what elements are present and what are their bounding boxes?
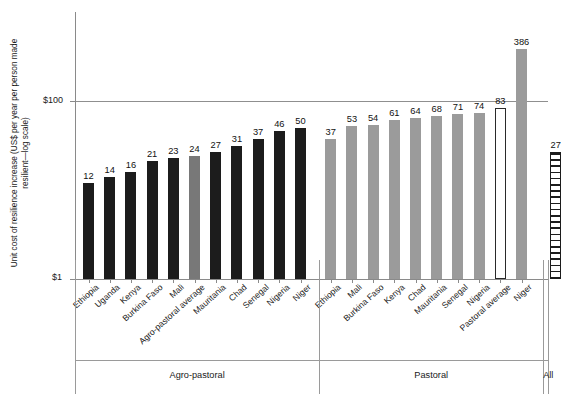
y-axis-title: Unit cost of resilience increase (US$ pe… [2, 28, 38, 278]
bar-fill [389, 120, 400, 279]
x-axis-category-label: Niger [291, 282, 313, 303]
x-tick-mark [331, 279, 332, 283]
bar-fill [168, 158, 179, 279]
y-tick-label-100: $100 [43, 95, 63, 105]
bar-value-label: 27 [211, 140, 221, 150]
x-tick-mark [500, 279, 501, 283]
x-tick-mark [437, 279, 438, 283]
x-tick-mark [131, 279, 132, 283]
x-tick-mark [237, 279, 238, 283]
group-band: Agro-pastoralPastoralAll [75, 360, 548, 394]
y-axis-title-text: Unit cost of resilience increase (US$ pe… [2, 28, 38, 278]
bar-fill [253, 139, 264, 279]
x-axis-category-label: Kenya [382, 282, 407, 306]
bar: 71 [452, 114, 463, 279]
bars-container: 1214162123242731374650375354616468717483… [75, 12, 548, 279]
bar: 37 [325, 139, 336, 279]
x-tick-mark [522, 279, 523, 283]
bar-fill [274, 131, 285, 279]
bar-fill [125, 172, 136, 279]
bar: 12 [83, 183, 94, 279]
bar-value-label: 50 [295, 116, 305, 126]
bar: 27 [210, 152, 221, 279]
bar: 27 [550, 152, 561, 279]
bar: 46 [274, 131, 285, 279]
group-label-agro-pastoral: Agro-pastoral [75, 370, 319, 380]
x-tick-mark [89, 279, 90, 283]
x-tick-mark [352, 279, 353, 283]
x-tick-mark [458, 279, 459, 283]
bar-value-label: 46 [274, 119, 284, 129]
x-axis-line [75, 279, 548, 280]
bar-fill [410, 118, 421, 279]
bar-fill [452, 114, 463, 279]
x-tick-mark [258, 279, 259, 283]
category-labels-container: EthiopiaUgandaKenyaBurkina FasoMaliAgro-… [75, 282, 548, 357]
bar-fill [431, 116, 442, 279]
x-tick-mark [195, 279, 196, 283]
bar: 31 [231, 146, 242, 279]
group-band-top-line [75, 360, 548, 361]
bar-value-label: 386 [514, 37, 530, 47]
x-tick-mark [301, 279, 302, 283]
group-label-all: All [543, 370, 548, 380]
y-tick-label-1: $1 [52, 272, 62, 282]
bar-fill [495, 108, 506, 279]
bar-fill [83, 183, 94, 279]
bar-fill [210, 152, 221, 279]
bar: 37 [253, 139, 264, 279]
bar-value-label: 68 [432, 104, 442, 114]
bar: 24 [189, 156, 200, 279]
bar: 74 [474, 113, 485, 279]
x-tick-mark [479, 279, 480, 283]
bar-value-label: 24 [189, 144, 199, 154]
x-tick-mark [152, 279, 153, 283]
x-tick-mark [394, 279, 395, 283]
bar-fill [474, 113, 485, 279]
bar-fill [346, 126, 357, 280]
bar: 16 [125, 172, 136, 279]
bar: 68 [431, 116, 442, 279]
x-axis-category-label: Ethiopia [313, 282, 343, 310]
bar-fill [516, 49, 527, 279]
bar-value-label: 37 [326, 127, 336, 137]
bar-value-label: 16 [126, 160, 136, 170]
bar: 54 [368, 125, 379, 279]
x-tick-mark [416, 279, 417, 283]
bar-fill [189, 156, 200, 279]
bar: 23 [168, 158, 179, 279]
bar: 64 [410, 118, 421, 279]
x-axis-category-label: Niger [512, 282, 534, 303]
bar-value-label: 27 [551, 140, 561, 150]
bar: 21 [147, 161, 158, 279]
bar-value-label: 12 [83, 171, 93, 181]
bar-fill [104, 177, 115, 279]
bar-value-label: 64 [410, 106, 420, 116]
bar: 61 [389, 120, 400, 279]
x-tick-mark [173, 279, 174, 283]
bar-value-label: 61 [389, 108, 399, 118]
bar-value-label: 37 [253, 127, 263, 137]
bar-value-label: 31 [232, 134, 242, 144]
bar-value-label: 74 [474, 101, 484, 111]
bar-value-label: 83 [495, 96, 505, 106]
bar: 14 [104, 177, 115, 279]
bar-fill [325, 139, 336, 279]
bar-value-label: 21 [147, 149, 157, 159]
bar: 386 [516, 49, 527, 279]
group-label-pastoral: Pastoral [319, 370, 543, 380]
x-tick-mark [216, 279, 217, 283]
x-tick-mark [110, 279, 111, 283]
bar: 83 [495, 108, 506, 279]
bar: 53 [346, 126, 357, 280]
bar-value-label: 23 [168, 146, 178, 156]
bar-value-label: 14 [105, 165, 115, 175]
bar-value-label: 71 [453, 102, 463, 112]
bar-fill [147, 161, 158, 279]
bar-value-label: 53 [347, 114, 357, 124]
bar-fill [368, 125, 379, 279]
x-tick-mark [279, 279, 280, 283]
bar-fill [550, 152, 561, 279]
bar-value-label: 54 [368, 113, 378, 123]
